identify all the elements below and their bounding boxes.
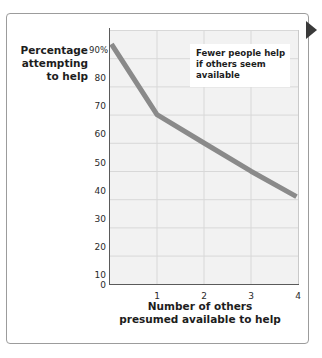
y-axis-caption-line-2: attempting	[12, 57, 88, 70]
x-axis-caption: Number of others presumed available to h…	[92, 300, 308, 326]
chart-annotation: Fewer people help if others seem availab…	[190, 44, 290, 87]
x-axis-line	[109, 284, 299, 285]
right-arrow-icon	[306, 21, 317, 39]
y-tick-label-40: 40	[80, 187, 106, 196]
chart-annotation-line-1: Fewer people help	[196, 48, 285, 59]
y-tick-label-90: 90%	[76, 46, 108, 55]
y-tick-label-70: 70	[80, 102, 106, 111]
y-tick-label-20: 20	[80, 243, 106, 252]
y-tick-label-60: 60	[80, 130, 106, 139]
y-axis-caption-line-3: to help	[12, 70, 88, 83]
chart-figure: Percentage attempting to help	[0, 0, 322, 358]
y-tick-label-80: 80	[80, 74, 106, 83]
chart-annotation-line-2: if others seem	[196, 59, 285, 70]
y-axis-line	[109, 28, 110, 285]
y-tick-label-30: 30	[80, 215, 106, 224]
y-tick-label-50: 50	[80, 159, 106, 168]
y-tick-label-0: 0	[80, 281, 106, 290]
chart-annotation-line-3: available	[196, 70, 285, 81]
y-tick-label-10: 10	[80, 271, 106, 280]
x-axis-caption-line-2: presumed available to help	[92, 313, 308, 326]
x-axis-caption-line-1: Number of others	[92, 300, 308, 313]
